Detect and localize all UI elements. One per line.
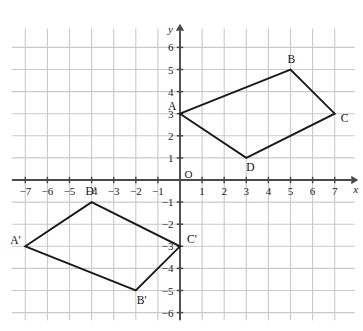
y-tick-label-4: 4 (168, 86, 174, 98)
x-axis-name-label: x (352, 183, 358, 195)
x-tick-label-7: 7 (332, 185, 338, 197)
y-tick-label--4: −4 (162, 262, 174, 274)
vertex-label-A: A (168, 100, 177, 112)
axis-tick-labels: −7−6−5−4−3−2−11234567654321−1−2−3−4−5−6O… (19, 23, 358, 319)
y-tick-label--5: −5 (162, 285, 174, 297)
x-tick-label-2: 2 (221, 185, 227, 197)
vertex-label-D: D (246, 161, 254, 173)
coordinate-plot-svg: −7−6−5−4−3−2−11234567654321−1−2−3−4−5−6O… (0, 0, 363, 331)
y-axis-name-label: y (167, 23, 173, 35)
x-tick-label--7: −7 (19, 185, 31, 197)
x-tick-label--2: −2 (130, 185, 142, 197)
x-tick-label--1: −1 (152, 185, 164, 197)
vertex-label-Dprime: D' (86, 185, 96, 197)
y-tick-label--2: −2 (162, 218, 174, 230)
y-tick-label--6: −6 (162, 307, 174, 319)
vertex-label-Cprime: C' (187, 233, 197, 245)
vertex-label-C: C (341, 112, 349, 124)
grid-lines (12, 29, 355, 321)
x-tick-label-4: 4 (266, 185, 272, 197)
x-tick-label--5: −5 (64, 185, 76, 197)
origin-label: O (185, 168, 193, 180)
y-tick-label-6: 6 (168, 41, 174, 53)
y-axis-arrowhead (176, 24, 184, 31)
x-tick-label-3: 3 (244, 185, 250, 197)
x-tick-label-6: 6 (310, 185, 316, 197)
y-tick-label-5: 5 (168, 64, 174, 76)
y-tick-label-2: 2 (168, 130, 174, 142)
x-tick-label--6: −6 (42, 185, 54, 197)
x-tick-label-5: 5 (288, 185, 294, 197)
vertex-label-B: B (288, 53, 296, 65)
x-tick-label--3: −3 (108, 185, 120, 197)
coordinate-plane-figure: −7−6−5−4−3−2−11234567654321−1−2−3−4−5−6O… (0, 0, 363, 331)
y-tick-label-1: 1 (168, 152, 174, 164)
vertex-label-Bprime: B' (137, 294, 147, 306)
x-tick-label-1: 1 (199, 185, 205, 197)
y-tick-label--1: −1 (162, 196, 174, 208)
vertex-label-Aprime: A' (10, 234, 20, 246)
